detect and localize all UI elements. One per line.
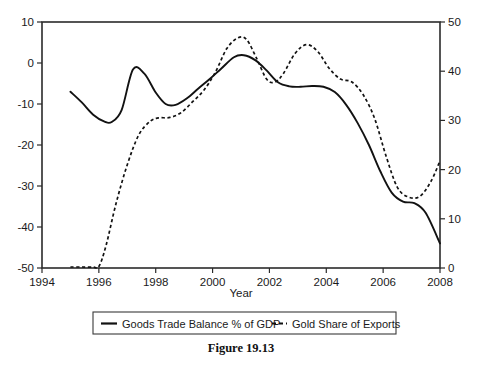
- y-axis-right-tick-label: 30: [448, 114, 461, 126]
- x-axis-tick-label: 1994: [29, 276, 55, 288]
- y-axis-right-ticks: 50403020100: [440, 16, 461, 274]
- y-axis-left-ticks: 100-10-20-30-40-50: [17, 16, 42, 274]
- x-axis-tick-label: 1996: [86, 276, 112, 288]
- x-axis-tick-label: 2008: [427, 276, 453, 288]
- x-axis-title: Year: [229, 287, 252, 299]
- line-chart: 100-10-20-30-40-50 50403020100 199419961…: [0, 0, 483, 366]
- y-axis-right-tick-label: 50: [448, 16, 461, 28]
- chart-legend: Goods Trade Balance % of GDP Gold Share …: [93, 312, 401, 334]
- legend-label-gold-share: Gold Share of Exports: [292, 318, 401, 330]
- y-axis-left-tick-label: -10: [17, 98, 34, 110]
- x-axis-tick-label: 2002: [257, 276, 283, 288]
- y-axis-left-tick-label: -20: [17, 139, 34, 151]
- x-axis-tick-label: 2006: [370, 276, 396, 288]
- y-axis-left-tick-label: 0: [28, 57, 34, 69]
- y-axis-left-tick-label: -30: [17, 180, 34, 192]
- y-axis-left-tick-label: -50: [17, 262, 34, 274]
- x-axis-ticks: 19941996199820002002200420062008: [29, 268, 453, 288]
- figure-caption: Figure 19.13: [208, 341, 274, 355]
- x-axis-tick-label: 1998: [143, 276, 169, 288]
- y-axis-right-tick-label: 10: [448, 213, 461, 225]
- y-axis-right-tick-label: 40: [448, 65, 461, 77]
- legend-label-goods-trade-balance: Goods Trade Balance % of GDP: [122, 318, 280, 330]
- y-axis-left-tick-label: 10: [21, 16, 34, 28]
- x-axis-tick-label: 2000: [200, 276, 226, 288]
- y-axis-left-tick-label: -40: [17, 221, 34, 233]
- plot-area-frame: [42, 22, 440, 268]
- y-axis-right-tick-label: 0: [448, 262, 454, 274]
- figure-container: 100-10-20-30-40-50 50403020100 199419961…: [0, 0, 483, 366]
- y-axis-right-tick-label: 20: [448, 164, 461, 176]
- x-axis-tick-label: 2004: [313, 276, 339, 288]
